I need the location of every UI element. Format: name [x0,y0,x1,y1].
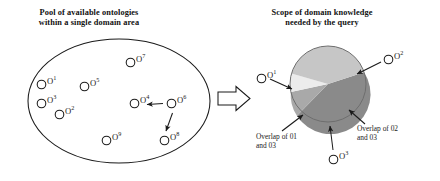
ontology-node-o7 [126,58,135,67]
ontology-node-o9 [102,136,111,145]
ontology-node-o8 [160,136,169,145]
label-o9: O9 [112,133,121,142]
label-o2: O2 [65,107,74,116]
ontology-node-o1 [37,80,46,89]
ontology-node-o6 [167,99,176,108]
label-o8: O8 [170,133,179,142]
label-o1: O1 [47,77,56,86]
label-o4: O4 [140,96,149,105]
left-panel-caption: Pool of available ontologies within a si… [14,8,164,28]
ontology-node-o5 [80,82,89,91]
scope-node-o3 [329,155,338,164]
annotation-overlap-o2-o3: Overlap of 02 and 03 [357,125,429,142]
label-o2-scope: O2 [394,52,403,61]
transition-block-arrow [218,87,250,111]
label-o1-scope: O1 [267,71,276,80]
ontology-node-o3 [37,99,46,108]
arrow-o6-to-o4 [147,104,163,105]
arrow-o6-to-o8 [166,113,173,131]
pointer-o1-to-pie [270,79,292,89]
annotation-overlap-o1-o3: Overlap of 01 and 03 [256,133,326,150]
label-o6: O6 [177,96,186,105]
pointer-overlap-left-to-pie [282,115,303,131]
label-o3-scope: O3 [339,152,348,161]
ontology-node-o2 [55,110,64,119]
label-o7: O7 [136,55,145,64]
right-panel-caption: Scope of domain knowledge needed by the … [252,8,392,28]
scope-node-o2 [384,55,393,64]
ontology-scope-diagram: Pool of available ontologies within a si… [0,0,440,181]
scope-node-o1 [257,74,266,83]
ontology-node-o4 [130,99,139,108]
label-o5: O5 [90,79,99,88]
label-o3: O3 [47,96,56,105]
